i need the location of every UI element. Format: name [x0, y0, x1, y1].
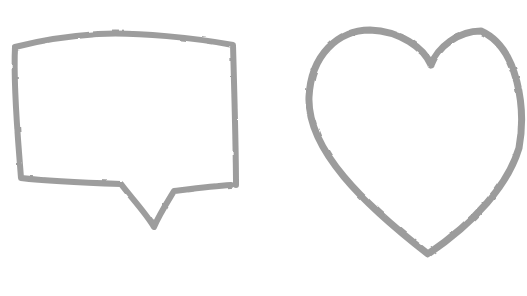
sketch-drawing [0, 0, 527, 296]
heart-icon [309, 30, 521, 254]
speech-bubble-icon [15, 34, 236, 227]
sketch-canvas [0, 0, 527, 296]
